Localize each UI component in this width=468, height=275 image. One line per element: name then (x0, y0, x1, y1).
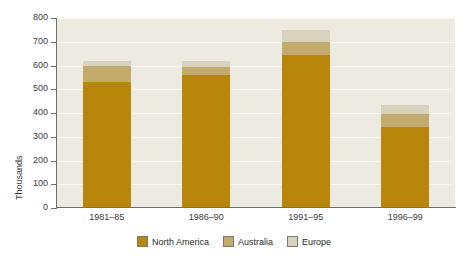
y-axis-tick-label: 800 (14, 12, 48, 22)
x-axis-line (56, 207, 456, 208)
bar-group[interactable] (282, 30, 330, 208)
chart-container: 0100200300400500600700800 Thousands 1981… (0, 0, 468, 275)
legend-item[interactable]: Australia (223, 236, 273, 247)
legend-item[interactable]: North America (137, 236, 209, 247)
y-axis-tick-label: 400 (14, 107, 48, 117)
legend-swatch-icon (287, 236, 298, 247)
x-axis-tick-label: 1981–85 (62, 212, 152, 222)
legend-swatch-icon (223, 236, 234, 247)
y-axis-tick (51, 113, 57, 114)
bar-segment-north-america[interactable] (381, 127, 429, 208)
legend-swatch-icon (137, 236, 148, 247)
bar-segment-europe[interactable] (282, 30, 330, 42)
bar-segment-australia[interactable] (381, 114, 429, 127)
x-axis-tick-label: 1996–99 (360, 212, 450, 222)
y-axis-tick (51, 137, 57, 138)
bar-segment-north-america[interactable] (83, 82, 131, 208)
y-axis-tick (51, 161, 57, 162)
plot-area (57, 18, 455, 208)
bar-group[interactable] (83, 61, 131, 208)
y-axis-tick (51, 18, 57, 19)
bar-segment-north-america[interactable] (182, 75, 230, 208)
bar-segment-australia[interactable] (182, 67, 230, 75)
y-axis-title: Thousands (14, 155, 24, 200)
y-axis-tick (51, 89, 57, 90)
gridline (57, 42, 455, 43)
y-axis-tick-label: 600 (14, 60, 48, 70)
bar-group[interactable] (182, 61, 230, 208)
legend-item[interactable]: Europe (287, 236, 331, 247)
y-axis-tick (51, 66, 57, 67)
y-axis-tick (51, 184, 57, 185)
y-axis-tick-label: 500 (14, 83, 48, 93)
legend-label: Australia (238, 237, 273, 247)
y-axis-tick-label: 0 (14, 202, 48, 212)
bar-segment-europe[interactable] (381, 105, 429, 115)
gridline (57, 18, 455, 19)
bar-segment-north-america[interactable] (282, 55, 330, 208)
x-axis-tick-label: 1991–95 (261, 212, 351, 222)
y-axis-tick-label: 700 (14, 36, 48, 46)
bar-segment-australia[interactable] (282, 42, 330, 55)
bar-segment-australia[interactable] (83, 66, 131, 83)
chart-legend: North AmericaAustraliaEurope (0, 236, 468, 247)
x-axis-tick-label: 1986–90 (161, 212, 251, 222)
y-axis-tick-label: 300 (14, 131, 48, 141)
y-axis-tick (51, 42, 57, 43)
bar-group[interactable] (381, 105, 429, 208)
y-axis-tick (51, 208, 57, 209)
legend-label: North America (152, 237, 209, 247)
legend-label: Europe (302, 237, 331, 247)
y-axis-title-wrap: Thousands (2, 92, 16, 212)
